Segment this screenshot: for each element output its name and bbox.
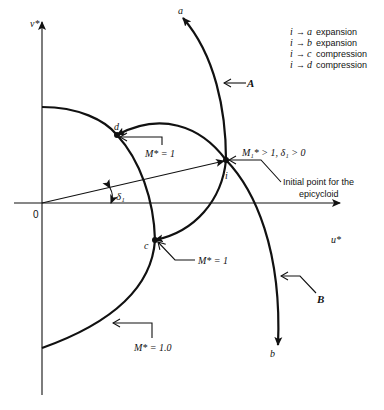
svg-text:i: i <box>290 26 293 37</box>
epicycloid-diagram: v* u* 0 δ₁ a b c d i A B M* = 1 M* = 1 M… <box>0 0 384 410</box>
legend-item: i → c compression <box>290 48 367 59</box>
leader-circle <box>113 323 152 338</box>
initial-point-label-2: epicycloid <box>299 189 339 199</box>
point-c-dot <box>152 237 158 243</box>
legend-item: i → b expansion <box>290 37 357 48</box>
svg-text:a: a <box>307 26 312 37</box>
u-axis-label: u* <box>331 234 341 245</box>
curve-B-label: B <box>316 293 324 305</box>
m-star-c-label: M* = 1 <box>197 255 228 266</box>
v-axis-label: v* <box>30 18 39 29</box>
legend-item: i → a expansion <box>290 26 357 37</box>
curve-i-to-c <box>155 160 226 240</box>
angle-arc <box>110 188 112 203</box>
leader-c <box>158 242 195 260</box>
point-d-dot <box>114 132 120 138</box>
leader-B <box>281 276 316 293</box>
svg-text:compression: compression <box>316 60 367 70</box>
point-c-label: c <box>144 240 149 251</box>
svg-text:c: c <box>307 48 312 59</box>
svg-text:i: i <box>290 59 293 70</box>
leader-d <box>120 137 162 145</box>
point-a-label: a <box>178 5 183 16</box>
point-i-label: i <box>225 170 228 181</box>
legend-item: i → d compression <box>290 59 367 70</box>
initial-point-label-1: Initial point for the <box>283 177 354 187</box>
legend: i → a expansion i → b expansion i → c co… <box>290 26 367 70</box>
m-star-d-label: M* = 1 <box>144 148 175 159</box>
point-d-label: d <box>114 121 120 132</box>
svg-text:i: i <box>290 37 293 48</box>
point-i-dot <box>223 157 229 163</box>
svg-text:expansion: expansion <box>316 27 357 37</box>
velocity-vector <box>42 161 224 203</box>
initial-condition-label: M₁* > 1, δ₁ > 0 <box>241 147 305 158</box>
curve-i-to-b <box>226 160 278 345</box>
svg-text:i: i <box>290 48 293 59</box>
angle-label: δ₁ <box>116 190 125 202</box>
point-b-label: b <box>270 348 275 359</box>
svg-text:compression: compression <box>316 49 367 59</box>
m-star-circle-label: M* = 1.0 <box>133 342 172 353</box>
svg-text:→: → <box>296 27 305 37</box>
origin-label: 0 <box>33 209 39 220</box>
svg-text:→: → <box>296 60 305 70</box>
curve-A-label: A <box>246 77 254 89</box>
svg-text:expansion: expansion <box>316 38 357 48</box>
svg-text:→: → <box>296 38 305 48</box>
sonic-circle-curve <box>42 107 155 348</box>
svg-text:d: d <box>307 59 313 70</box>
svg-text:→: → <box>296 49 305 59</box>
svg-text:b: b <box>307 37 312 48</box>
